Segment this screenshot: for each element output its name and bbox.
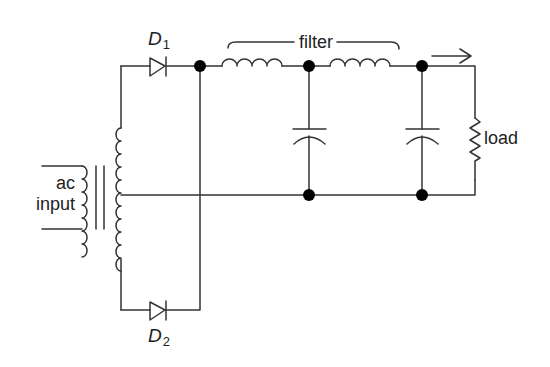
- rectifier-circuit-diagram: D1 D2 filter load ac input: [0, 0, 550, 367]
- capacitor-c1: [293, 66, 326, 195]
- junction-node: [303, 60, 315, 72]
- output-arrow-icon: [432, 49, 471, 63]
- capacitor-c2: [406, 66, 439, 195]
- inductor-l2: [330, 59, 390, 66]
- diode-d1: [150, 57, 166, 76]
- label-ac: ac: [56, 173, 75, 193]
- junction-node: [194, 60, 206, 72]
- label-load: load: [484, 128, 518, 148]
- wire-output: [390, 66, 475, 118]
- transformer-core: [96, 166, 104, 229]
- secondary-winding: [116, 66, 121, 310]
- label-d2: D2: [148, 325, 170, 349]
- label-filter: filter: [299, 32, 333, 52]
- filter-brace-right: [337, 42, 399, 49]
- junction-node: [303, 189, 315, 201]
- label-d1: D1: [148, 28, 170, 52]
- wire-d2-cathode: [166, 66, 200, 310]
- diode-d2: [150, 301, 166, 320]
- label-input: input: [36, 194, 75, 214]
- junction-node: [416, 189, 428, 201]
- junction-node: [416, 60, 428, 72]
- resistor-load: [470, 118, 480, 180]
- filter-brace-left: [228, 42, 294, 48]
- inductor-l1: [222, 59, 282, 66]
